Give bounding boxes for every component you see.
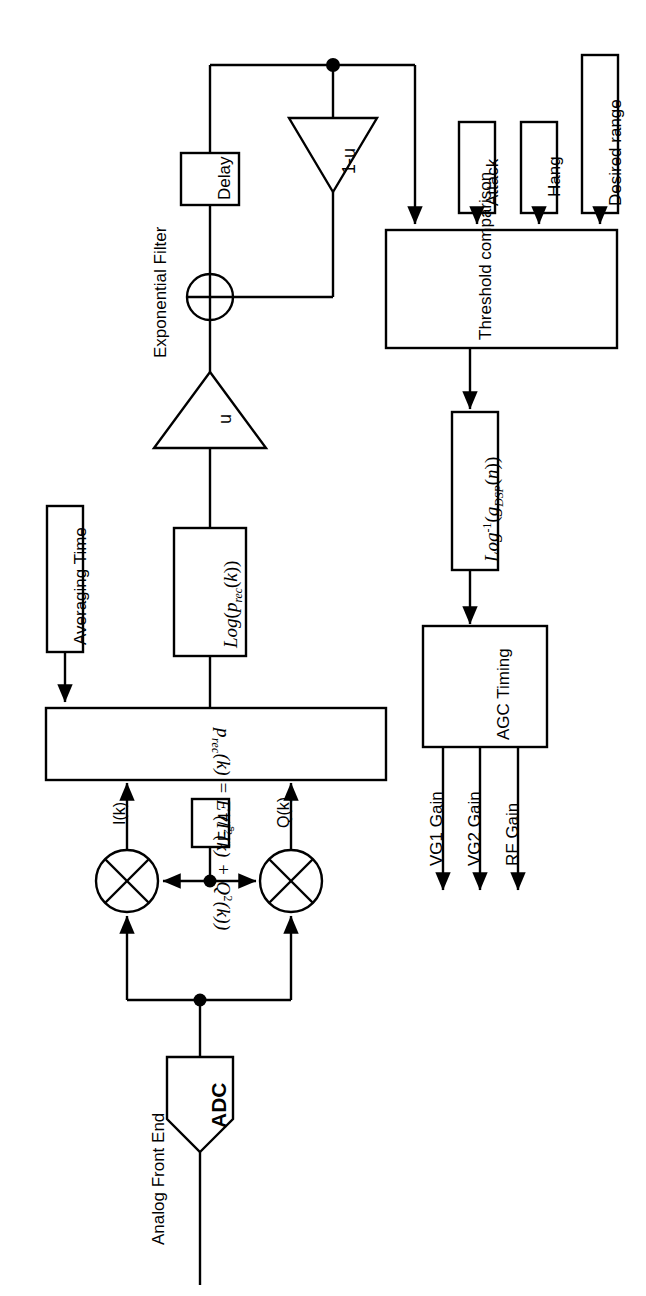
exponential-filter-label: Exponential Filter — [152, 227, 169, 358]
gain-u-triangle — [154, 372, 266, 448]
analog-front-end-label: Analog Front End — [150, 1113, 167, 1245]
gain-u-label: u — [216, 414, 234, 424]
power-estimate-equation: prec(k) = E (I2(k) + Q2(k)) — [209, 728, 233, 931]
threshold-comparison-box — [386, 230, 617, 348]
log-power-equation: Log(prec(k)) — [221, 561, 245, 648]
gain-one-minus-u-triangle — [289, 118, 377, 192]
vg2-gain-label: VG2 Gain — [466, 791, 483, 866]
agc-timing-label: AGC Timing — [495, 648, 512, 740]
averaging-time-label: Averaging Time — [72, 527, 89, 645]
diagram-canvas: Analog Front End ADC I(k) Q(k) Fs/4 prec… — [0, 0, 646, 1296]
rf-gain-label: RF Gain — [504, 803, 521, 866]
hang-label: Hang — [546, 156, 563, 197]
desired-range-label: Desired range — [607, 99, 624, 206]
q-branch-label: Q(k) — [276, 797, 292, 828]
agc-timing-box — [423, 626, 547, 747]
vg1-gain-label: VG1 Gain — [428, 791, 445, 866]
adc-label: ADC — [208, 1083, 229, 1129]
inverse-log-equation: Log-1(gDSP(n)) — [482, 457, 506, 562]
delay-label: Delay — [216, 157, 233, 200]
i-branch-label: I(k) — [112, 802, 128, 825]
threshold-comparison-label-line1: Threshold comparison — [477, 172, 494, 340]
gain-one-minus-u-label: 1-u — [340, 148, 358, 174]
